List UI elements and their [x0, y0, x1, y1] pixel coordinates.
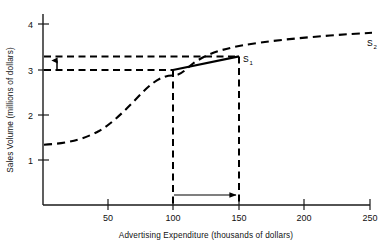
series-s1-line: [173, 56, 239, 70]
x-tick-label-250: 250: [362, 213, 377, 223]
chart-figure: 4 3 2 1 50 100 150 200 250 Advertising E…: [0, 0, 389, 246]
series-label-s1: S: [243, 54, 249, 64]
chart-canvas: 4 3 2 1 50 100 150 200 250 Advertising E…: [0, 0, 389, 246]
x-tick-label-100: 100: [165, 213, 180, 223]
series-label-s2: S: [367, 38, 373, 48]
y-axis-tick-labels: 4 3 2 1: [28, 20, 33, 166]
y-tick-label-1: 1: [28, 156, 33, 166]
series-label-s1-group: S 1: [243, 54, 254, 66]
y-axis-title: Sales Volume (millions of dollars): [6, 47, 15, 173]
x-tick-label-200: 200: [296, 213, 311, 223]
series-label-s1-subscript: 1: [250, 60, 254, 66]
x-axis-title: Advertising Expenditure (thousands of do…: [119, 231, 294, 240]
y-tick-label-3: 3: [28, 66, 33, 76]
reference-lines-group: [44, 56, 239, 204]
x-axis-tick-labels: 50 100 150 200 250: [103, 213, 378, 223]
series-s2-curve: [44, 33, 372, 145]
y-tick-label-4: 4: [28, 20, 33, 30]
axes-group: [43, 14, 370, 205]
x-tick-label-50: 50: [103, 213, 113, 223]
series-label-s2-group: S 2: [367, 38, 378, 50]
series-label-s2-subscript: 2: [374, 44, 378, 50]
x-tick-label-150: 150: [231, 213, 246, 223]
y-tick-label-2: 2: [28, 111, 33, 121]
